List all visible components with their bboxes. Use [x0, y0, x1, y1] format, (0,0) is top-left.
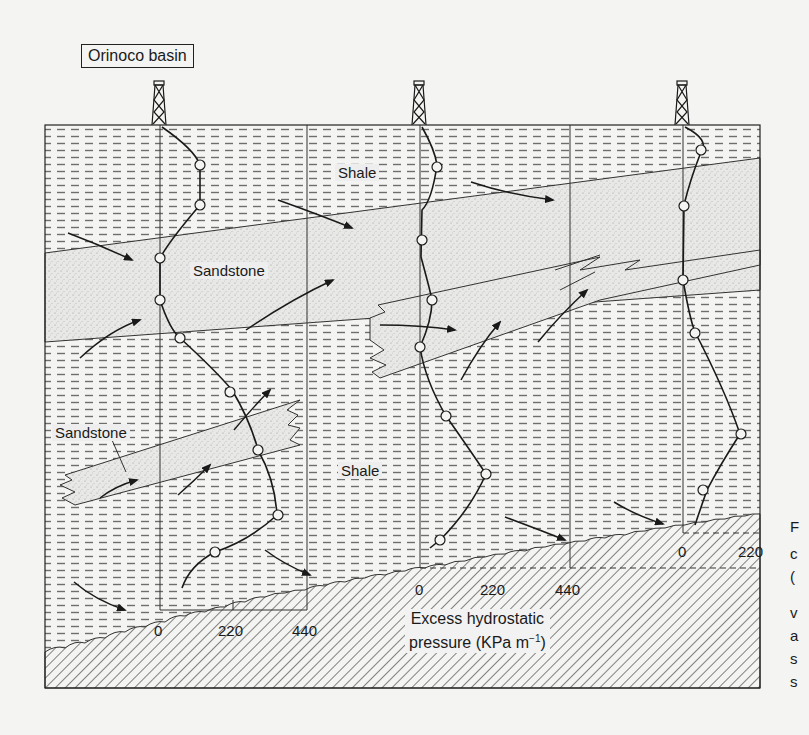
derrick-icon — [412, 81, 426, 125]
tick-well1-220: 220 — [218, 622, 243, 639]
tick-well1-440: 440 — [292, 622, 317, 639]
axis-title: Excess hydrostatic pressure (KPa m−1) — [405, 609, 550, 653]
caption-fragment: ( — [790, 568, 795, 585]
tick-well2-440: 440 — [555, 581, 580, 598]
basin-title: Orinoco basin — [81, 44, 194, 68]
caption-fragment: c — [790, 545, 798, 562]
label-shale-top: Shale — [335, 164, 379, 181]
axis-title-line2: pressure (KPa m — [409, 634, 529, 651]
caption-fragment: s — [790, 673, 798, 690]
label-shale-middle: Shale — [338, 462, 382, 479]
caption-fragment: F — [790, 518, 799, 535]
caption-fragment: v — [790, 604, 798, 621]
axis-title-line1: Excess hydrostatic — [411, 610, 544, 627]
caption-fragment: a — [790, 627, 798, 644]
label-sandstone-lower: Sandstone — [52, 424, 130, 441]
axis-title-exponent: −1 — [529, 633, 540, 644]
tick-well3-0: 0 — [678, 543, 686, 560]
axis-title-close: ) — [540, 634, 545, 651]
derrick-icon — [675, 81, 689, 125]
tick-well2-0: 0 — [415, 581, 423, 598]
derrick-icon — [152, 81, 166, 125]
caption-fragment: s — [790, 650, 798, 667]
tick-well2-220: 220 — [480, 581, 505, 598]
label-sandstone-upper: Sandstone — [190, 262, 268, 279]
tick-well1-0: 0 — [154, 622, 162, 639]
tick-well3-220: 220 — [738, 543, 763, 560]
